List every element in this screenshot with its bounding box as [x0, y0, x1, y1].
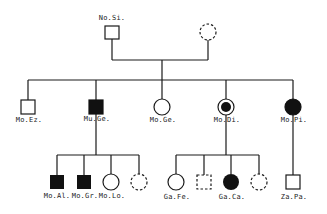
- female-dashed-symbol: [200, 24, 216, 40]
- female-unaffected-symbol: [103, 174, 119, 190]
- label-za-pa: Za.Pa.: [281, 193, 308, 201]
- carrier-dot: [221, 102, 231, 112]
- male-affected-symbol: [89, 100, 103, 114]
- label-ga-ca: Ga.Ca.: [219, 193, 246, 201]
- pedigree-chart: [0, 0, 327, 214]
- female-affected-symbol: [223, 174, 239, 190]
- label-mo-ez: Mo.Ez.: [16, 116, 43, 124]
- male-dashed-symbol: [197, 175, 211, 189]
- label-mo-gr: Mo.Gr.: [72, 192, 99, 200]
- male-unaffected-symbol: [21, 100, 35, 114]
- male-unaffected-symbol: [286, 175, 300, 189]
- female-dashed-symbol: [251, 174, 267, 190]
- female-unaffected-symbol: [154, 99, 170, 115]
- label-mo-ge: Mo.Ge.: [150, 116, 177, 124]
- label-mo-pi: Mo.Pi.: [281, 116, 308, 124]
- label-ga-fe: Ga.Fe.: [164, 193, 191, 201]
- label-no-si: No.Si.: [99, 14, 126, 22]
- male-affected-symbol: [50, 175, 64, 189]
- female-affected-symbol: [285, 99, 301, 115]
- label-mo-lo: Mo.Lo.: [99, 192, 126, 200]
- male-affected-symbol: [77, 175, 91, 189]
- male-unaffected-symbol: [105, 26, 119, 39]
- female-dashed-symbol: [131, 174, 147, 190]
- label-mu-ge: Mu.Ge.: [84, 115, 111, 123]
- label-mo-al: Mo.Al.: [44, 192, 71, 200]
- female-unaffected-symbol: [168, 174, 184, 190]
- label-mo-di: Mo.Di.: [214, 116, 241, 124]
